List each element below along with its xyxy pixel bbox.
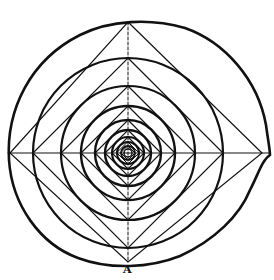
spiral-square-diagram (0, 0, 274, 280)
point-label: A (123, 263, 132, 276)
